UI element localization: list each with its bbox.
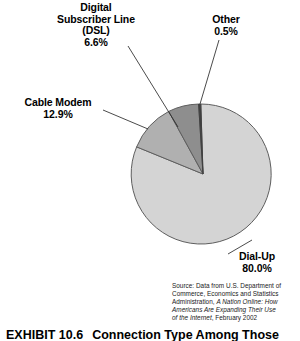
source-note-line-5-italic: of the Internet bbox=[172, 314, 212, 321]
exhibit-caption-inner: EXHIBIT 10.6Connection Type Among Those bbox=[6, 330, 279, 341]
slice-label-other-name: Other bbox=[196, 14, 256, 26]
source-note: Source: Data from U.S. Department of Com… bbox=[172, 282, 296, 322]
pie-chart-figure: Digital Subscriber Line (DSL) 6.6% Other… bbox=[0, 0, 300, 341]
exhibit-caption-title: Connection Type Among Those bbox=[92, 330, 279, 341]
source-note-line-3-plain: Administration, bbox=[172, 298, 216, 305]
slice-label-cable-modem: Cable Modem 12.9% bbox=[2, 97, 114, 120]
source-note-line-2: Commerce, Economics and Statistics bbox=[172, 290, 296, 298]
leader-line-other bbox=[200, 40, 219, 104]
source-note-line-3: Administration, A Nation Online: How bbox=[172, 298, 296, 306]
slice-label-dsl: Digital Subscriber Line (DSL) 6.6% bbox=[22, 2, 170, 48]
source-note-line-3-italic: A Nation Online: How bbox=[216, 298, 277, 305]
source-note-line-5-plain: , February 2002 bbox=[212, 314, 257, 321]
slice-label-dsl-line1: Digital bbox=[22, 2, 170, 14]
slice-label-cable-modem-name: Cable Modem bbox=[2, 97, 114, 109]
slice-label-dial-up-value: 80.0% bbox=[224, 263, 290, 275]
slice-label-dial-up: Dial-Up 80.0% bbox=[224, 251, 290, 274]
source-note-line-4: Americans Are Expanding Their Use bbox=[172, 306, 296, 314]
slice-label-other: Other 0.5% bbox=[196, 14, 256, 37]
exhibit-caption-number: EXHIBIT 10.6 bbox=[6, 330, 83, 341]
leader-line-dsl bbox=[128, 46, 178, 127]
slice-label-cable-modem-value: 12.9% bbox=[2, 109, 114, 121]
slice-label-other-value: 0.5% bbox=[196, 26, 256, 38]
source-note-line-5: of the Internet, February 2002 bbox=[172, 314, 296, 322]
slice-label-dial-up-name: Dial-Up bbox=[224, 251, 290, 263]
slice-label-dsl-value: 6.6% bbox=[22, 37, 170, 49]
pie-slices bbox=[131, 104, 271, 244]
exhibit-caption: EXHIBIT 10.6Connection Type Among Those bbox=[0, 330, 300, 341]
source-note-line-1: Source: Data from U.S. Department of bbox=[172, 282, 296, 290]
